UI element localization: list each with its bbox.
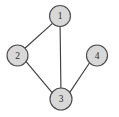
graph-figure: 1 2 3 4 [0,0,119,117]
graph-node-4[interactable]: 4 [87,45,108,66]
graph-node-3-label: 3 [59,94,64,104]
graph-node-1[interactable]: 1 [50,6,71,27]
graph-edge-1-3 [60,27,61,89]
graph-edge-3-4 [70,62,90,92]
graph-node-2[interactable]: 2 [7,45,28,66]
graph-canvas: 1 2 3 4 [0,0,119,117]
graph-node-3[interactable]: 3 [50,88,72,110]
graph-node-4-label: 4 [95,51,100,61]
edge-layer [25,23,90,92]
graph-node-2-label: 2 [15,51,20,61]
graph-edge-1-2 [25,23,53,48]
node-layer: 1 2 3 4 [7,6,108,111]
graph-node-1-label: 1 [58,11,63,21]
graph-edge-2-3 [26,62,52,93]
